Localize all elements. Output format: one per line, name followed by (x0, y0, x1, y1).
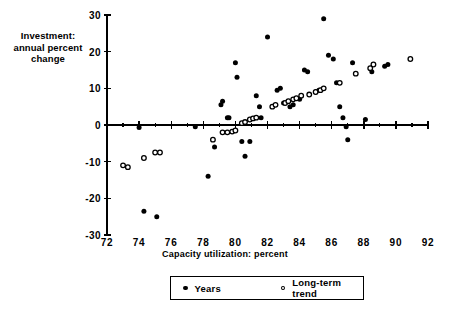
data-point (233, 60, 238, 65)
data-point (193, 124, 198, 129)
y-tick-label: -10 (65, 156, 101, 167)
data-point (137, 125, 142, 130)
y-tick-label: 30 (65, 10, 101, 21)
data-point (331, 57, 336, 62)
x-tick-label: 80 (229, 237, 242, 248)
x-tick-label: 90 (390, 237, 403, 248)
data-point (353, 71, 358, 76)
data-point (239, 139, 244, 144)
legend-item-long-term-trend: Long-term trend (281, 277, 363, 299)
data-point (142, 156, 147, 161)
data-point (321, 16, 326, 21)
data-point (247, 139, 252, 144)
data-point (212, 145, 217, 150)
x-axis (107, 121, 428, 129)
x-tick-label: 74 (133, 237, 146, 248)
x-tick-label: 76 (165, 237, 178, 248)
chart-legend: Years Long-term trend (170, 276, 364, 300)
x-axis-title: Capacity utilization: percent (0, 249, 450, 259)
legend-label-years: Years (195, 283, 221, 294)
filled-circle-icon (183, 286, 188, 291)
data-point (307, 92, 312, 97)
x-tick-label: 82 (261, 237, 274, 248)
data-point (321, 86, 326, 91)
data-point (273, 103, 278, 108)
data-point (243, 154, 248, 159)
data-point (126, 165, 131, 170)
data-point (259, 115, 264, 120)
data-point (385, 62, 390, 67)
legend-label-long-term-trend: Long-term trend (292, 277, 363, 299)
data-point (265, 35, 270, 40)
data-point (350, 60, 355, 65)
y-tick-label: 10 (65, 83, 101, 94)
data-point (278, 86, 283, 91)
data-point (153, 150, 158, 155)
data-point (235, 75, 240, 80)
data-point (337, 104, 342, 109)
open-circle-icon (281, 286, 285, 291)
data-point (326, 53, 331, 58)
x-tick-label: 86 (325, 237, 338, 248)
data-point (299, 93, 304, 98)
y-tick-label: -20 (65, 193, 101, 204)
series-years (137, 16, 391, 219)
data-point (291, 102, 296, 107)
data-point (254, 115, 259, 120)
data-point (257, 104, 262, 109)
data-point (226, 115, 231, 120)
data-point (220, 99, 225, 104)
data-point (211, 137, 216, 142)
data-point (206, 174, 211, 179)
data-point (225, 130, 230, 135)
data-point (141, 209, 146, 214)
x-tick-label: 84 (293, 237, 306, 248)
x-tick-label: 78 (197, 237, 210, 248)
data-point (305, 69, 310, 74)
data-point (371, 62, 376, 67)
data-point (243, 120, 248, 125)
legend-item-years: Years (183, 277, 221, 299)
data-point (286, 99, 291, 104)
y-tick-label: 20 (65, 46, 101, 57)
data-point (340, 115, 345, 120)
series-long-term-trend (121, 57, 413, 170)
data-point (337, 81, 342, 86)
data-point (233, 128, 238, 133)
data-point (344, 124, 349, 129)
data-point (313, 90, 318, 95)
data-point (363, 117, 368, 122)
data-point (345, 137, 350, 142)
data-point (154, 214, 159, 219)
y-tick-label: 0 (65, 120, 101, 131)
x-tick-label: 88 (357, 237, 370, 248)
y-tick-label: -30 (65, 230, 101, 241)
data-point (121, 163, 126, 168)
data-point (220, 130, 225, 135)
x-tick-label: 72 (101, 237, 114, 248)
data-point (158, 150, 163, 155)
data-point (254, 93, 259, 98)
data-point (408, 57, 413, 62)
scatter-chart-figure: Investment: annual percent change -30-20… (0, 0, 450, 316)
data-point (294, 96, 299, 101)
x-tick-label: 92 (422, 237, 435, 248)
